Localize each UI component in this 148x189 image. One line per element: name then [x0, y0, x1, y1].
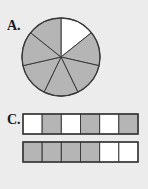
- fraction-bar-1: [23, 114, 138, 134]
- bar-cell: [23, 142, 42, 162]
- bar-cell: [100, 142, 119, 162]
- fraction-pie-chart: [22, 18, 100, 96]
- bar-cell: [42, 142, 61, 162]
- diagram-graphics: [0, 0, 148, 189]
- bar-cell: [119, 142, 138, 162]
- bar-cell: [42, 114, 61, 134]
- bar-cell: [23, 114, 42, 134]
- fraction-bar-2: [23, 142, 138, 162]
- bar-cell: [61, 142, 80, 162]
- bar-cell: [81, 114, 100, 134]
- bar-cell: [61, 114, 80, 134]
- bar-cell: [81, 142, 100, 162]
- bar-cell: [100, 114, 119, 134]
- fraction-diagram: A. C.: [0, 0, 148, 189]
- fraction-bars: [23, 114, 138, 162]
- bar-cell: [119, 114, 138, 134]
